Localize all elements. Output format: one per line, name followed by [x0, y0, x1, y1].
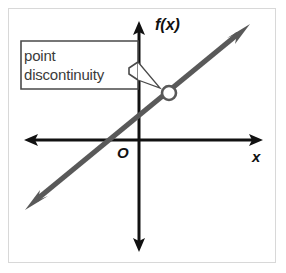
point-discontinuity-open-circle [162, 86, 176, 100]
y-axis-label: f(x) [155, 16, 180, 34]
callout-pointer [138, 62, 160, 88]
x-axis [24, 134, 263, 146]
figure-container: point discontinuity f(x) x O [0, 0, 286, 273]
graph-canvas [0, 0, 286, 273]
callout-label-line-2: discontinuity [24, 66, 104, 84]
x-axis-label: x [252, 148, 260, 165]
callout-label-line-1: point [24, 47, 56, 65]
origin-label: O [117, 144, 129, 161]
